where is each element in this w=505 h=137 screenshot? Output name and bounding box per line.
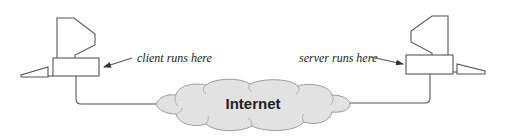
- server-network-link: [350, 74, 430, 103]
- server-keyboard: [457, 64, 485, 74]
- server-computer-icon: [406, 16, 485, 74]
- server-monitor: [411, 16, 448, 55]
- server-label: server runs here: [299, 51, 378, 65]
- client-network-link: [76, 76, 156, 104]
- client-system-unit: [53, 58, 99, 76]
- internet-label: Internet: [225, 95, 280, 112]
- client-arrow: [104, 58, 132, 67]
- internet-cloud-icon: Internet: [156, 79, 350, 130]
- client-label: client runs here: [137, 51, 213, 65]
- server-system-unit: [406, 55, 453, 74]
- client-computer-icon: [21, 18, 99, 77]
- client-keyboard: [21, 67, 48, 77]
- diagram-canvas: client runs here Internet server runs he…: [0, 0, 505, 137]
